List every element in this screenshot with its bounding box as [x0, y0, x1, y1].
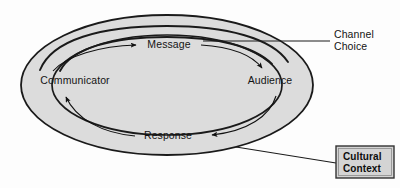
callout-cultural-context-line1: Cultural [343, 151, 382, 162]
node-label-response: Response [144, 129, 192, 141]
diagram-canvas: Communicator Audience Message Response C… [0, 0, 400, 188]
cultural-context-leader-line [236, 147, 336, 163]
callout-channel-choice-line1: Channel [334, 28, 374, 40]
node-label-communicator: Communicator [40, 74, 110, 86]
callout-cultural-context-line2: Context [343, 163, 381, 174]
node-label-message: Message [147, 38, 190, 50]
communication-process-diagram: Communicator Audience Message Response C… [0, 0, 400, 188]
node-label-audience: Audience [248, 74, 293, 86]
callout-channel-choice-line2: Choice [334, 40, 367, 52]
